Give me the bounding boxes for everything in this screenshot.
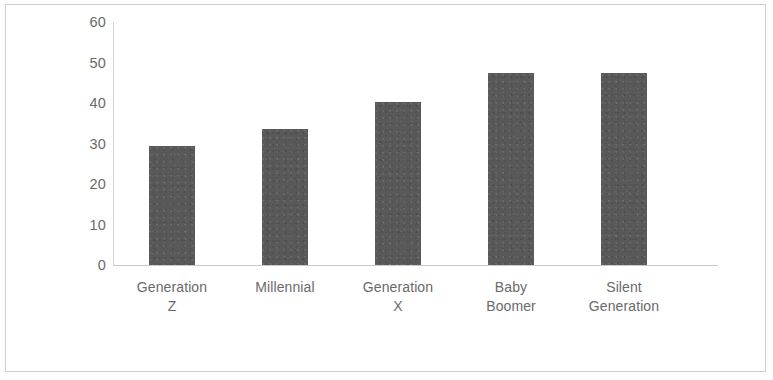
y-tick-50: 50: [66, 56, 106, 71]
bar-millennial: [262, 129, 308, 265]
chart-page: 60 50 40 30 20 10 0 Generation Z Millenn…: [0, 0, 773, 380]
bar-generation-z: [149, 146, 195, 265]
y-tick-30: 30: [66, 137, 106, 152]
bar-silent-generation: [601, 73, 647, 265]
y-tick-60: 60: [66, 15, 106, 30]
plot-area: [113, 22, 713, 265]
bar-generation-x: [375, 102, 421, 265]
y-tick-20: 20: [66, 177, 106, 192]
x-axis-line: [113, 265, 718, 266]
y-tick-10: 10: [66, 218, 106, 233]
y-axis-tick-labels: 60 50 40 30 20 10 0: [62, 0, 106, 380]
x-label-line2: Z: [97, 297, 247, 316]
x-label-line2: Generation: [549, 297, 699, 316]
x-label-line1: Silent: [549, 278, 699, 297]
x-label-silent-generation: Silent Generation: [549, 278, 699, 316]
y-tick-40: 40: [66, 96, 106, 111]
bar-baby-boomer: [488, 73, 534, 265]
y-tick-0: 0: [66, 258, 106, 273]
